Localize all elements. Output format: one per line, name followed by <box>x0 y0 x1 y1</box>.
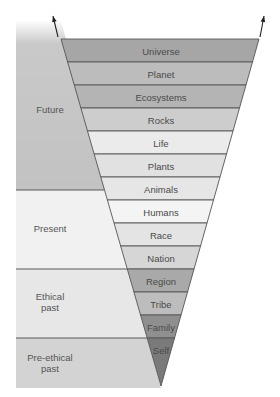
era-label: Ethical <box>36 291 65 302</box>
era-label: Pre-ethical <box>27 352 72 363</box>
band-label: Rocks <box>148 115 175 126</box>
era-panel <box>16 269 147 338</box>
era-label: Present <box>34 223 67 234</box>
band-region: Region <box>127 269 194 292</box>
band-label: Family <box>147 322 175 333</box>
band-nation: Nation <box>121 246 201 269</box>
band-label: Animals <box>144 184 178 195</box>
band-label: Race <box>150 230 172 241</box>
era-pre-ethical-past: Pre-ethicalpast <box>16 338 161 388</box>
band-label: Planet <box>148 69 175 80</box>
band-label: Ecosystems <box>135 92 186 103</box>
band-humans: Humans <box>107 200 213 223</box>
band-label: Humans <box>143 207 179 218</box>
band-planet: Planet <box>68 62 253 85</box>
band-family: Family <box>141 315 182 338</box>
era-label: Future <box>36 104 63 115</box>
band-label: Plants <box>148 161 175 172</box>
band-label: Region <box>146 276 176 287</box>
band-label: Tribe <box>150 299 171 310</box>
era-panel <box>16 338 161 388</box>
band-animals: Animals <box>101 177 220 200</box>
band-universe: Universe <box>61 39 259 62</box>
era-label: past <box>41 363 59 374</box>
right-arrow-icon <box>260 16 265 37</box>
band-plants: Plants <box>94 154 226 177</box>
band-tribe: Tribe <box>134 292 188 315</box>
band-label: Universe <box>142 46 180 57</box>
band-label: Life <box>153 138 168 149</box>
expanding-circle-diagram: FuturePresentEthicalpastPre-ethicalpast … <box>0 0 280 397</box>
band-rocks: Rocks <box>81 108 240 131</box>
band-race: Race <box>114 223 207 246</box>
band-label: Nation <box>147 253 174 264</box>
era-ethical-past: Ethicalpast <box>16 269 147 338</box>
era-label: past <box>41 302 59 313</box>
band-life: Life <box>88 131 234 154</box>
band-ecosystems: Ecosystems <box>74 85 246 108</box>
expansion-arrows <box>52 16 265 37</box>
band-label: Self <box>153 345 170 356</box>
